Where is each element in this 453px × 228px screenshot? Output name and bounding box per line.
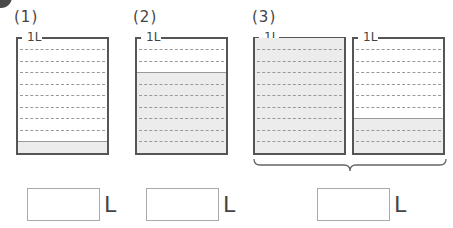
beaker-1: 1L (16, 38, 109, 155)
capacity-label: 1L (145, 31, 161, 43)
problem-1-label: (1) (14, 8, 38, 26)
problem-3-label: (3) (252, 8, 276, 26)
problem-2-label: (2) (133, 8, 157, 26)
problem-number-badge (0, 0, 12, 8)
capacity-label: 1L (362, 31, 378, 43)
answer-input-2[interactable] (146, 188, 219, 221)
beaker-3a: 1L (253, 38, 346, 155)
unit-label-1: L (104, 194, 116, 216)
answer-input-1[interactable] (27, 188, 100, 221)
beaker-2: 1L (135, 38, 228, 155)
answer-input-3[interactable] (317, 188, 390, 221)
grouping-brace (253, 158, 447, 174)
unit-label-3: L (394, 194, 406, 216)
beaker-3b: 1L (352, 38, 445, 155)
unit-label-2: L (223, 194, 235, 216)
capacity-label: 1L (26, 31, 42, 43)
